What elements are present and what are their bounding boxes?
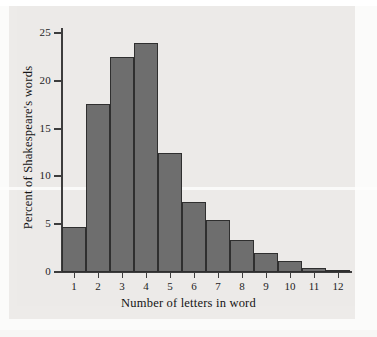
x-tick-mark xyxy=(242,273,243,278)
histogram-bar xyxy=(326,270,350,272)
x-tick-mark xyxy=(98,273,99,278)
page-bottom-strip xyxy=(0,330,377,337)
histogram-bar xyxy=(158,153,182,273)
x-tick-mark xyxy=(170,273,171,278)
x-tick-label: 4 xyxy=(135,280,157,292)
x-tick-mark xyxy=(290,273,291,278)
x-tick-label: 3 xyxy=(111,280,133,292)
y-axis-label: Percent of Shakespeare's words xyxy=(21,28,36,268)
x-tick-mark xyxy=(218,273,219,278)
x-tick-mark xyxy=(266,273,267,278)
x-tick-label: 1 xyxy=(63,280,85,292)
scan-artifact-top xyxy=(0,0,377,6)
x-tick-label: 10 xyxy=(279,280,301,292)
x-axis-label: Number of letters in word xyxy=(0,296,377,311)
x-tick-label: 6 xyxy=(183,280,205,292)
x-tick-label: 5 xyxy=(159,280,181,292)
x-tick-mark xyxy=(74,273,75,278)
histogram-bar xyxy=(278,261,302,272)
x-tick-label: 2 xyxy=(87,280,109,292)
y-tick-label: 5 xyxy=(45,218,51,229)
y-tick-mark xyxy=(54,175,62,177)
histogram-bar xyxy=(206,220,230,272)
histogram-bar xyxy=(134,43,158,272)
x-tick-label: 8 xyxy=(231,280,253,292)
histogram-bar xyxy=(86,104,110,272)
y-tick-label: 10 xyxy=(40,170,51,181)
x-tick-mark xyxy=(146,273,147,278)
x-tick-mark xyxy=(194,273,195,278)
y-tick-label: 25 xyxy=(40,27,51,38)
histogram-bar xyxy=(302,268,326,272)
y-tick-label: 20 xyxy=(40,75,51,86)
y-tick-mark xyxy=(54,223,62,225)
y-tick-label: 15 xyxy=(40,123,51,134)
y-tick-mark xyxy=(54,80,62,82)
y-tick-mark xyxy=(54,271,62,273)
y-tick-label: 0 xyxy=(45,266,51,277)
histogram-bar xyxy=(62,227,86,272)
histogram-bar xyxy=(254,253,278,272)
y-tick-mark xyxy=(54,128,62,130)
x-tick-label: 12 xyxy=(327,280,349,292)
histogram-bar xyxy=(230,240,254,272)
histogram-figure: 0510152025 123456789101112 Number of let… xyxy=(0,0,377,337)
histogram-bar xyxy=(182,202,206,272)
x-tick-label: 9 xyxy=(255,280,277,292)
x-tick-mark xyxy=(314,273,315,278)
y-tick-mark xyxy=(54,32,62,34)
x-tick-mark xyxy=(338,273,339,278)
x-tick-mark xyxy=(122,273,123,278)
x-tick-label: 11 xyxy=(303,280,325,292)
scan-artifact-band xyxy=(0,187,377,190)
histogram-bar xyxy=(110,57,134,272)
x-tick-label: 7 xyxy=(207,280,229,292)
